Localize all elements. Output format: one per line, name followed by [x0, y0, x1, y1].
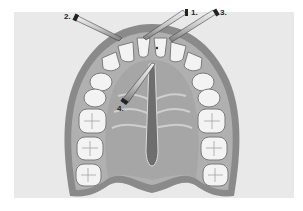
- label-1: 1.: [191, 8, 198, 17]
- label-3: 3.: [220, 8, 227, 17]
- label-4: 4.: [117, 104, 124, 113]
- dental-arch-illustration: 2. 1. 3. 4.: [0, 0, 303, 211]
- tooth-premolar-2-left: [198, 89, 220, 107]
- tooth-central-incisor-right: [137, 38, 150, 57]
- injection-point-incisive: [156, 47, 158, 49]
- tooth-premolar-1-left: [192, 73, 214, 91]
- tooth-premolar-1-right: [90, 73, 112, 91]
- label-2: 2.: [64, 12, 71, 21]
- tooth-premolar-2-right: [84, 89, 106, 107]
- dental-arch-figure: 2. 1. 3. 4.: [0, 0, 303, 211]
